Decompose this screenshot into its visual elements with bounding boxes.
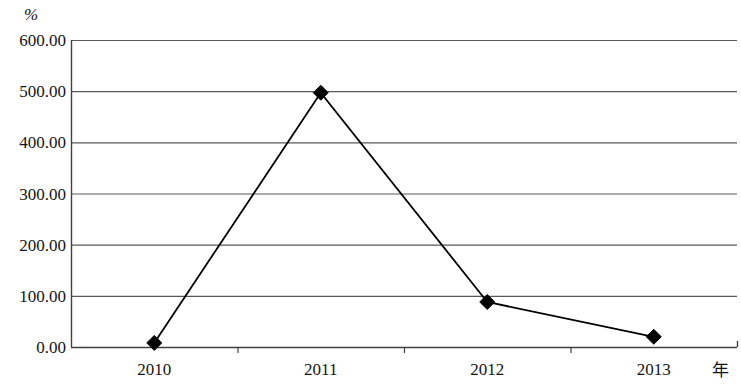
data-point-marker bbox=[646, 329, 661, 344]
series-line bbox=[154, 93, 654, 343]
line-chart: % 年 0.00100.00200.00300.00400.00500.0060… bbox=[0, 0, 741, 388]
plot-area bbox=[0, 0, 741, 388]
